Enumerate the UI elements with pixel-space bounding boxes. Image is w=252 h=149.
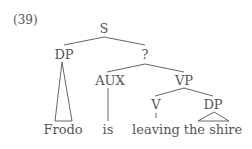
node-unknown: ? (142, 48, 149, 62)
leaf-frodo: Frodo (43, 123, 82, 137)
node-v: V (151, 98, 160, 112)
node-vp: VP (175, 74, 193, 88)
leaf-is: is (103, 123, 114, 137)
leaf-the-shire: the shire (184, 123, 243, 137)
node-aux: AUX (95, 74, 125, 88)
node-s: S (100, 22, 109, 36)
node-dp-object: DP (203, 98, 222, 112)
leaf-leaving: leaving (132, 123, 180, 137)
node-dp-subject: DP (54, 48, 73, 62)
